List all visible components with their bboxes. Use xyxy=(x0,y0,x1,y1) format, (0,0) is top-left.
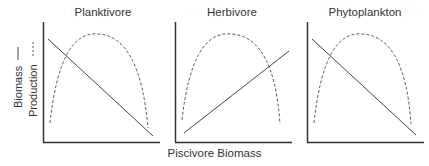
y-label-biomass: Biomass xyxy=(12,66,24,108)
panel-herbivore xyxy=(175,22,292,143)
x-axis-label: Piscivore Biomass xyxy=(0,147,429,159)
panel-planktivore xyxy=(43,22,160,143)
production-curve xyxy=(182,34,280,124)
panel-title-planktivore: Planktivore xyxy=(43,6,163,18)
biomass-line xyxy=(48,39,153,136)
production-curve xyxy=(314,34,411,124)
figure-canvas xyxy=(0,0,429,166)
biomass-line xyxy=(312,39,416,135)
panel-phytoplankton xyxy=(307,22,424,143)
panel-title-phytoplankton: Phytoplankton xyxy=(305,6,425,18)
y-label-production: Production xyxy=(27,64,39,117)
production-curve xyxy=(50,34,148,128)
panel-title-herbivore: Herbivore xyxy=(172,6,292,18)
biomass-line xyxy=(184,51,289,133)
